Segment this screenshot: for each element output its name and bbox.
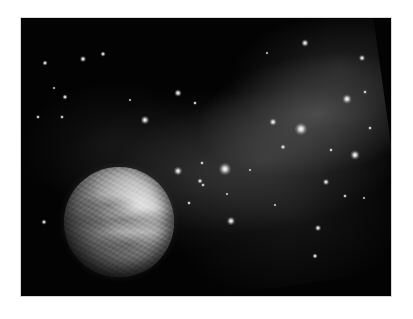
star (227, 217, 235, 225)
star (201, 183, 205, 187)
star (42, 220, 47, 225)
star (80, 56, 86, 62)
page (0, 0, 413, 319)
star (270, 119, 277, 126)
space-scene (21, 18, 391, 296)
star (175, 90, 182, 97)
star (141, 116, 149, 124)
star (266, 52, 269, 55)
star (343, 95, 352, 104)
planet-terminator-shadow (64, 167, 174, 277)
star (193, 101, 197, 105)
star (219, 163, 231, 175)
star (343, 194, 347, 198)
star (60, 115, 64, 119)
star (187, 201, 191, 205)
star (63, 95, 68, 100)
star (43, 61, 48, 66)
star (101, 52, 106, 57)
star (363, 90, 367, 94)
star (36, 115, 40, 119)
star (315, 225, 321, 231)
star (281, 145, 286, 150)
star (359, 55, 365, 61)
star (274, 204, 277, 207)
star (295, 123, 307, 135)
star (129, 99, 132, 102)
star (174, 167, 182, 175)
star (200, 161, 204, 165)
star (329, 148, 333, 152)
star (249, 169, 252, 172)
star (351, 151, 360, 160)
star (226, 193, 229, 196)
planet (64, 167, 174, 277)
star (323, 179, 329, 185)
star (53, 87, 56, 90)
star (302, 40, 309, 47)
star (368, 126, 372, 130)
star (363, 197, 366, 200)
star (313, 254, 318, 259)
